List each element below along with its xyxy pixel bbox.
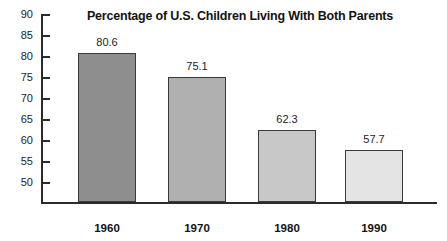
y-axis-tick-label: 65	[7, 114, 33, 125]
x-axis-tick-label: 1980	[258, 222, 316, 234]
y-axis-tick	[43, 182, 50, 184]
y-axis-tick	[43, 98, 50, 100]
bar-value-label: 75.1	[168, 61, 226, 72]
y-axis-tick-label: 85	[7, 30, 33, 41]
y-axis-tick-label: 80	[7, 51, 33, 62]
y-axis-tick-labels: 908580757065605550	[0, 14, 33, 204]
bar	[78, 53, 136, 202]
y-axis-tick	[43, 56, 50, 58]
y-axis-tick-label: 90	[7, 9, 33, 20]
y-axis-tick	[43, 140, 50, 142]
bar	[258, 130, 316, 202]
x-axis-tick-label: 1960	[78, 222, 136, 234]
y-axis-tick	[43, 77, 50, 79]
plot-area: 80.675.162.357.7 1960197019801990	[41, 14, 437, 204]
bar-value-label: 62.3	[258, 114, 316, 125]
y-axis-tick	[43, 161, 50, 163]
y-axis-tick-label: 75	[7, 72, 33, 83]
y-axis-line	[41, 14, 43, 204]
y-axis-tick-label: 60	[7, 135, 33, 146]
y-axis-tick-label: 55	[7, 156, 33, 167]
bar	[168, 77, 226, 202]
y-axis-tick-label: 50	[7, 177, 33, 188]
bar-value-label: 57.7	[345, 134, 403, 145]
y-axis-tick	[43, 119, 50, 121]
x-axis-line	[41, 202, 437, 204]
x-axis-tick-label: 1970	[168, 222, 226, 234]
y-axis-tick	[43, 35, 50, 37]
bar-chart: Percentage of U.S. Children Living With …	[0, 0, 447, 241]
bar	[345, 150, 403, 202]
x-axis-tick-label: 1990	[345, 222, 403, 234]
y-axis-tick	[43, 14, 50, 16]
y-axis-tick-label: 70	[7, 93, 33, 104]
bar-value-label: 80.6	[78, 37, 136, 48]
